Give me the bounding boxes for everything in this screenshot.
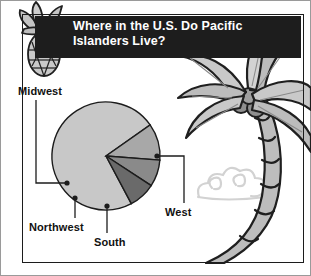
pie-chart: [0, 0, 311, 276]
dot-northwest: [72, 195, 77, 200]
pie-label-northwest: Northwest: [29, 221, 84, 233]
pie-label-midwest: Midwest: [18, 85, 62, 97]
infographic-figure: Where in the U.S. Do Pacific Islanders L…: [0, 0, 311, 276]
pie-label-west: West: [165, 206, 191, 218]
pie-label-south: South: [94, 236, 126, 248]
leader-west: [157, 156, 184, 203]
dot-south: [104, 203, 109, 208]
dot-midwest: [64, 180, 69, 185]
dot-west: [154, 153, 159, 158]
